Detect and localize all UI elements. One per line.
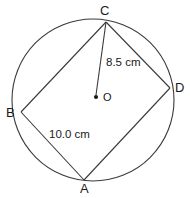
vertex-label-b: B — [6, 106, 15, 119]
center-label-o: O — [103, 92, 112, 103]
edge-B-C — [21, 22, 106, 112]
segment-C-O-radius — [96, 22, 106, 95]
chord-measure-label: 10.0 cm — [49, 129, 90, 141]
edge-D-A — [84, 88, 170, 180]
vertex-label-a: A — [80, 182, 89, 195]
radius-measure-label: 8.5 cm — [106, 57, 141, 69]
center-point-dot — [94, 95, 98, 99]
circle-outline — [12, 19, 174, 181]
geometry-canvas — [0, 0, 190, 198]
geometry-figure: C D A B O 8.5 cm 10.0 cm — [0, 0, 190, 198]
vertex-label-d: D — [175, 81, 184, 94]
vertex-label-c: C — [100, 4, 109, 17]
